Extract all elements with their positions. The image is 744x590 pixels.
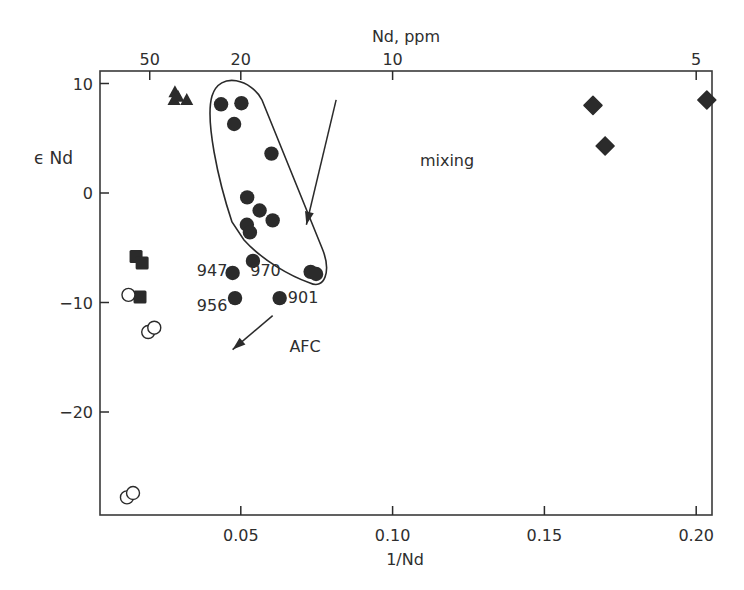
y-tick-label: 10 bbox=[73, 75, 93, 94]
y-tick-label: 0 bbox=[83, 184, 93, 203]
circle-open-point bbox=[127, 487, 140, 500]
sample-label: 901 bbox=[288, 288, 319, 307]
x-tick-label: 0.10 bbox=[375, 526, 411, 545]
y-axis-title: ϵNd bbox=[34, 148, 73, 168]
y-tick-label: −20 bbox=[59, 403, 93, 422]
y-tick-label: −10 bbox=[59, 294, 93, 313]
data-points bbox=[120, 85, 715, 504]
square-filled-point bbox=[136, 257, 149, 270]
circle-filled-point bbox=[243, 225, 257, 239]
axis-ticks: 0.050.100.150.205020105100−10−20 bbox=[59, 50, 714, 545]
circle-filled-point bbox=[227, 117, 241, 131]
plot-frame bbox=[100, 71, 712, 515]
circle-filled-point bbox=[214, 97, 228, 111]
top-tick-label: 20 bbox=[231, 50, 251, 69]
top-tick-label: 50 bbox=[140, 50, 160, 69]
square-filled-point bbox=[134, 291, 147, 304]
circle-filled-point bbox=[234, 96, 248, 110]
diamond-filled-point bbox=[596, 137, 614, 155]
annotation-mixing: mixing bbox=[420, 151, 474, 170]
sample-label: 956 bbox=[197, 296, 228, 315]
y-axis-title-text: Nd bbox=[49, 148, 73, 168]
circle-filled-point bbox=[309, 267, 323, 281]
diamond-filled-point bbox=[698, 91, 716, 109]
mixing-ellipse bbox=[210, 80, 326, 284]
circle-filled-point bbox=[225, 266, 239, 280]
circle-open-point bbox=[122, 288, 135, 301]
circle-open-point bbox=[148, 321, 161, 334]
top-tick-label: 5 bbox=[691, 50, 701, 69]
annotations: mixingAFC947970956901 bbox=[197, 151, 474, 356]
sample-label: 947 bbox=[197, 261, 228, 280]
circle-filled-point bbox=[264, 146, 278, 160]
circle-filled-point bbox=[240, 190, 254, 204]
sample-label: 970 bbox=[250, 261, 281, 280]
circle-filled-point bbox=[272, 291, 286, 305]
epsilon-symbol: ϵ bbox=[34, 148, 44, 168]
circle-filled-point bbox=[252, 203, 266, 217]
mixing-arrow-shaft bbox=[306, 100, 336, 225]
x-axis-title: 1/Nd bbox=[386, 550, 424, 569]
x-tick-label: 0.15 bbox=[527, 526, 563, 545]
x-tick-label: 0.05 bbox=[223, 526, 259, 545]
top-axis-title: Nd, ppm bbox=[372, 27, 440, 46]
annotation-afc: AFC bbox=[289, 337, 320, 356]
x-tick-label: 0.20 bbox=[678, 526, 714, 545]
circle-filled-point bbox=[228, 291, 242, 305]
scatter-chart: Nd, ppm 1/Nd ϵNd 0.050.100.150.205020105… bbox=[0, 0, 744, 590]
circle-filled-point bbox=[265, 213, 279, 227]
top-tick-label: 10 bbox=[382, 50, 402, 69]
diamond-filled-point bbox=[584, 96, 602, 114]
